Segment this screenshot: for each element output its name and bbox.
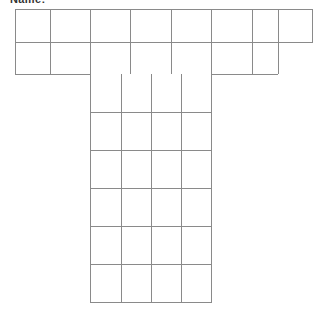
worksheet-grid <box>0 0 315 311</box>
grid-cell-faces <box>15 9 313 303</box>
page-root: Name: <box>0 0 315 311</box>
grid-svg <box>0 0 315 311</box>
top-band-row-2-face <box>15 42 278 74</box>
top-band-row-1-face <box>15 9 313 42</box>
